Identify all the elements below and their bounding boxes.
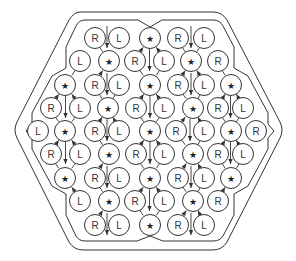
arrow-head-icon (105, 183, 109, 188)
star-icon: ★ (187, 57, 195, 67)
cell-r: R (246, 121, 267, 142)
cell-star: ★ (183, 98, 204, 119)
cell-label: L (201, 80, 207, 91)
cell-label: R (91, 173, 98, 184)
cell-label: L (161, 149, 167, 160)
cell-l: L (109, 28, 130, 49)
star-icon: ★ (61, 81, 69, 91)
cell-star: ★ (183, 191, 204, 212)
cell-r: R (168, 75, 189, 96)
cell-label: R (174, 80, 181, 91)
cell-r: R (168, 168, 189, 189)
cell-star: ★ (183, 144, 204, 165)
arrow-head-icon (147, 206, 151, 211)
arrow-head-icon (63, 113, 67, 118)
cell-l: L (154, 191, 175, 212)
cell-l: L (154, 98, 175, 119)
cell-l: L (194, 28, 215, 49)
cell-r: R (41, 98, 62, 119)
arrow-head-icon (228, 159, 232, 164)
star-icon: ★ (61, 174, 69, 184)
cell-label: L (116, 173, 122, 184)
cell-label: L (161, 56, 167, 67)
cell-label: L (35, 126, 41, 137)
cell-l: L (28, 121, 49, 142)
cell-star: ★ (99, 191, 120, 212)
cell-star: ★ (55, 168, 76, 189)
arrow-head-icon (105, 90, 109, 95)
star-icon: ★ (189, 150, 197, 160)
cell-l: L (194, 75, 215, 96)
cell-r: R (168, 215, 189, 236)
cell-label: L (161, 103, 167, 114)
cell-label: R (252, 126, 259, 137)
cell-label: L (201, 126, 207, 137)
cell-label: L (116, 126, 122, 137)
cell-star: ★ (55, 121, 76, 142)
cell-label: R (132, 103, 139, 114)
cell-label: R (214, 149, 221, 160)
hex-puzzle-diagram: RL★RLL★RL★R★RL★RL★RL★RL★RLL★RL★RL★RRL★RL… (0, 0, 296, 261)
star-icon: ★ (104, 104, 112, 114)
cell-r: R (126, 144, 147, 165)
cell-label: L (77, 56, 83, 67)
cell-star: ★ (140, 121, 161, 142)
cell-star: ★ (99, 51, 120, 72)
cell-r: R (168, 28, 189, 49)
cell-star: ★ (181, 51, 202, 72)
cell-label: R (91, 126, 98, 137)
cell-l: L (154, 51, 175, 72)
star-icon: ★ (146, 81, 154, 91)
star-icon: ★ (227, 174, 235, 184)
star-icon: ★ (146, 34, 154, 44)
cell-l: L (70, 51, 91, 72)
cell-l: L (109, 168, 130, 189)
arrow-head-icon (189, 90, 193, 95)
cell-r: R (85, 75, 106, 96)
arrow-head-icon (105, 43, 109, 48)
cell-l: L (70, 98, 91, 119)
cell-star: ★ (140, 28, 161, 49)
cell-star: ★ (221, 121, 242, 142)
arrow-head-icon (148, 113, 152, 118)
cell-star: ★ (99, 144, 120, 165)
cell-star: ★ (221, 75, 242, 96)
cell-label: L (116, 33, 122, 44)
cell-label: L (240, 103, 246, 114)
cell-l: L (194, 121, 215, 142)
arrow-head-icon (189, 183, 193, 188)
cell-l: L (109, 215, 130, 236)
cell-star: ★ (140, 75, 161, 96)
cell-label: R (172, 126, 179, 137)
cell-label: L (116, 220, 122, 231)
cell-label: R (131, 196, 138, 207)
cell-r: R (208, 144, 229, 165)
star-icon: ★ (227, 81, 235, 91)
cell-r: R (85, 215, 106, 236)
cell-label: R (47, 149, 54, 160)
cell-l: L (70, 191, 91, 212)
cell-label: L (201, 173, 207, 184)
cell-star: ★ (221, 168, 242, 189)
arrow-head-icon (189, 230, 193, 235)
cell-label: R (132, 149, 139, 160)
cell-star: ★ (140, 168, 161, 189)
arrow-head-icon (147, 66, 151, 71)
cell-r: R (208, 191, 229, 212)
arrow-head-icon (228, 113, 232, 118)
cell-r: R (85, 121, 106, 142)
cell-r: R (125, 51, 146, 72)
star-icon: ★ (146, 174, 154, 184)
cell-r: R (41, 144, 62, 165)
cell-l: L (109, 121, 130, 142)
star-icon: ★ (105, 57, 113, 67)
arrow-head-icon (148, 159, 152, 164)
arrow-head-icon (105, 136, 109, 141)
star-icon: ★ (146, 127, 154, 137)
cell-label: L (240, 149, 246, 160)
cell-r: R (125, 191, 146, 212)
cell-label: R (91, 80, 98, 91)
cell-l: L (154, 144, 175, 165)
star-icon: ★ (227, 127, 235, 137)
star-icon: ★ (146, 221, 154, 231)
